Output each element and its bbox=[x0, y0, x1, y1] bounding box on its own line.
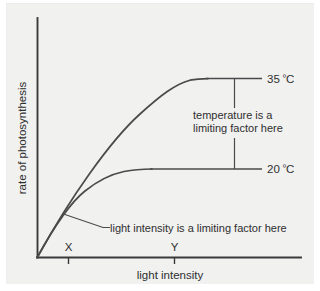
annotation-temperature-line1: temperature is a bbox=[193, 109, 273, 121]
annotation-temperature-line2: limiting factor here bbox=[193, 122, 283, 134]
series-label-35c-unit: C bbox=[286, 73, 294, 85]
series-label-20c-unit: C bbox=[286, 163, 294, 175]
curve-20c bbox=[38, 169, 153, 257]
chart-canvas: X Y light intensity rate of photosynthes… bbox=[0, 0, 320, 291]
series-label-20c-value: 20 bbox=[267, 163, 280, 175]
annotation-light-intensity-text: light intensity is a limiting factor her… bbox=[110, 222, 287, 234]
x-tick-label-Y: Y bbox=[171, 241, 179, 253]
x-tick-label-X: X bbox=[65, 241, 73, 253]
y-axis-title: rate of photosynthesis bbox=[16, 81, 28, 194]
annotation-light-intensity-leader bbox=[64, 214, 111, 228]
series-label-35c-value: 35 bbox=[267, 73, 280, 85]
photosynthesis-limiting-factors-figure: X Y light intensity rate of photosynthes… bbox=[0, 0, 320, 291]
series-label-20c: 20 ºC bbox=[267, 163, 294, 175]
series-label-35c: 35 ºC bbox=[267, 73, 294, 85]
x-axis-title: light intensity bbox=[137, 269, 204, 281]
